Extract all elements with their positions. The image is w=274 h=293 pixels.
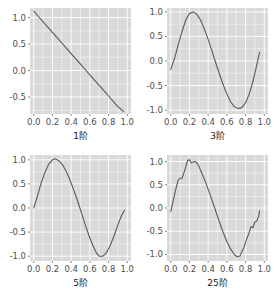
x-tick-label: 0.2 bbox=[46, 264, 60, 274]
y-tick-label: 0.0 bbox=[12, 66, 26, 76]
panel-4-plot-area: 0.00.20.40.60.81.0-1.0-0.50.00.51.025阶 bbox=[146, 155, 271, 288]
x-tick-label: 0.8 bbox=[102, 117, 116, 127]
x-tick-label: 0.2 bbox=[183, 264, 197, 274]
x-tick-label: 0.0 bbox=[27, 264, 41, 274]
x-tick-label: 0.6 bbox=[83, 264, 97, 274]
y-tick-label: 0.0 bbox=[149, 203, 163, 213]
x-tick-label: 0.4 bbox=[64, 264, 78, 274]
x-tick-label: 0.4 bbox=[201, 117, 215, 127]
panel-order-1: 0.00.20.40.60.81.0-0.50.00.51.01阶 bbox=[0, 0, 137, 146]
panel-1-svg: 0.00.20.40.60.81.0-0.50.00.51.01阶 bbox=[0, 0, 137, 146]
y-tick-label: 1.0 bbox=[12, 154, 26, 164]
panel-order-25: 0.00.20.40.60.81.0-1.0-0.50.00.51.025阶 bbox=[137, 147, 274, 293]
x-tick-label: 0.6 bbox=[220, 117, 234, 127]
panel-3-plot-area: 0.00.20.40.60.81.0-1.0-0.50.00.51.05阶 bbox=[9, 154, 134, 287]
x-axis-title: 3阶 bbox=[210, 130, 225, 141]
x-tick-label: 0.0 bbox=[164, 264, 178, 274]
y-tick-label: -0.5 bbox=[146, 226, 163, 236]
x-tick-label: 0.0 bbox=[27, 117, 41, 127]
y-tick-label: -0.5 bbox=[146, 81, 163, 91]
x-tick-label: 1.0 bbox=[257, 117, 271, 127]
y-tick-label: 1.0 bbox=[149, 7, 163, 17]
x-axis-title: 25阶 bbox=[207, 277, 227, 288]
panel-2-plot-area: 0.00.20.40.60.81.0-1.0-0.50.00.51.03阶 bbox=[146, 7, 271, 141]
x-axis-title: 1阶 bbox=[73, 130, 88, 141]
y-tick-label: -0.5 bbox=[9, 227, 26, 237]
y-tick-label: -1.0 bbox=[9, 251, 26, 261]
x-tick-label: 0.0 bbox=[164, 117, 178, 127]
x-tick-label: 0.6 bbox=[83, 117, 97, 127]
x-tick-label: 1.0 bbox=[120, 117, 134, 127]
y-tick-label: -1.0 bbox=[146, 249, 163, 259]
panel-3-svg: 0.00.20.40.60.81.0-1.0-0.50.00.51.05阶 bbox=[0, 147, 137, 293]
y-tick-label: 0.5 bbox=[149, 31, 163, 41]
panel-4-svg: 0.00.20.40.60.81.0-1.0-0.50.00.51.025阶 bbox=[137, 147, 274, 293]
x-tick-label: 0.2 bbox=[183, 117, 197, 127]
x-tick-label: 1.0 bbox=[120, 264, 134, 274]
panel-1-plot-area: 0.00.20.40.60.81.0-0.50.00.51.01阶 bbox=[9, 8, 134, 141]
y-tick-label: 0.0 bbox=[149, 56, 163, 66]
y-tick-label: -1.0 bbox=[146, 105, 163, 115]
x-tick-label: 0.8 bbox=[102, 264, 116, 274]
y-tick-label: 1.0 bbox=[149, 156, 163, 166]
x-tick-label: 0.4 bbox=[64, 117, 78, 127]
x-axis-title: 5阶 bbox=[73, 277, 88, 288]
y-tick-label: 0.5 bbox=[149, 179, 163, 189]
x-tick-label: 0.2 bbox=[46, 117, 60, 127]
y-tick-label: 1.0 bbox=[12, 13, 26, 23]
x-tick-label: 1.0 bbox=[257, 264, 271, 274]
x-tick-label: 0.8 bbox=[239, 117, 253, 127]
x-tick-label: 0.4 bbox=[201, 264, 215, 274]
x-tick-label: 0.6 bbox=[220, 264, 234, 274]
y-tick-label: 0.5 bbox=[12, 39, 26, 49]
panel-order-3: 0.00.20.40.60.81.0-1.0-0.50.00.51.03阶 bbox=[137, 0, 274, 146]
panel-order-5: 0.00.20.40.60.81.0-1.0-0.50.00.51.05阶 bbox=[0, 147, 137, 293]
fourier-series-figure: 0.00.20.40.60.81.0-0.50.00.51.01阶 0.00.2… bbox=[0, 0, 274, 293]
y-tick-label: 0.5 bbox=[12, 178, 26, 188]
y-tick-label: -0.5 bbox=[9, 92, 26, 102]
y-tick-label: 0.0 bbox=[12, 203, 26, 213]
panel-2-svg: 0.00.20.40.60.81.0-1.0-0.50.00.51.03阶 bbox=[137, 0, 274, 146]
x-tick-label: 0.8 bbox=[239, 264, 253, 274]
